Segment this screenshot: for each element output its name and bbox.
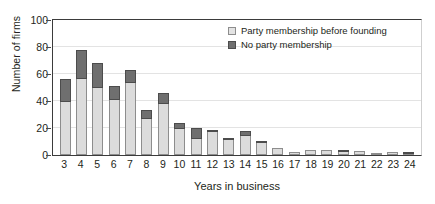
bar-slot [90,20,106,155]
chart-legend: Party membership before founding No part… [228,25,387,53]
y-tick-mark [46,74,51,75]
y-tick-mark [46,47,51,48]
legend-item-label: No party membership [241,39,332,50]
bar-segment-party-membership-before-founding [158,104,169,155]
y-tick-mark [46,155,51,156]
legend-item: No party membership [228,39,387,50]
bar-segment-party-membership-before-founding [321,150,332,155]
bar-segment-party-membership-before-founding [272,148,283,155]
x-tick-label: 18 [303,158,319,170]
x-tick-label: 16 [270,158,286,170]
bar-segment-party-membership-before-founding [256,143,267,155]
stacked-bar[interactable] [403,152,414,155]
bar-slot [122,20,138,155]
stacked-bar[interactable] [158,93,169,155]
bar-segment-party-membership-before-founding [174,129,185,155]
legend-item-label: Party membership before founding [241,25,387,36]
chart-figure: Number of firms 020406080100 34567891011… [0,0,435,204]
stacked-bar[interactable] [272,148,283,155]
stacked-bar[interactable] [289,152,300,155]
stacked-bar[interactable] [76,50,87,155]
x-axis-title: Years in business [52,180,422,192]
stacked-bar[interactable] [191,128,202,155]
bar-segment-party-membership-before-founding [371,153,382,155]
stacked-bar[interactable] [92,63,103,155]
x-tick-label: 17 [286,158,302,170]
bar-segment-party-membership-before-founding [338,152,349,155]
stacked-bar[interactable] [354,151,365,155]
x-tick-label: 11 [188,158,204,170]
bar-slot [155,20,171,155]
bar-slot [57,20,73,155]
stacked-bar[interactable] [60,79,71,155]
legend-item: Party membership before founding [228,25,387,36]
x-tick-label: 6 [105,158,121,170]
x-tick-label: 9 [155,158,171,170]
bar-segment-party-membership-before-founding [191,139,202,155]
bar-segment-party-membership-before-founding [60,102,71,155]
bar-segment-party-membership-before-founding [354,151,365,155]
stacked-bar[interactable] [338,150,349,155]
bar-segment-no-party-membership [92,63,103,87]
bar-slot [401,20,417,155]
x-tick-label: 3 [56,158,72,170]
stacked-bar[interactable] [240,131,251,155]
x-tick-label: 21 [352,158,368,170]
bar-segment-party-membership-before-founding [240,136,251,155]
x-tick-label: 14 [237,158,253,170]
bar-slot [172,20,188,155]
bar-segment-party-membership-before-founding [289,152,300,155]
bar-slot [139,20,155,155]
bar-segment-no-party-membership [174,123,185,130]
x-tick-label: 7 [122,158,138,170]
x-tick-label: 20 [336,158,352,170]
stacked-bar[interactable] [223,138,234,155]
stacked-bar[interactable] [256,141,267,155]
y-axis-tick-labels: 020406080100 [18,14,48,160]
bar-slot [106,20,122,155]
bar-segment-party-membership-before-founding [141,119,152,155]
x-tick-label: 24 [402,158,418,170]
x-tick-label: 5 [89,158,105,170]
stacked-bar[interactable] [371,153,382,155]
stacked-bar[interactable] [109,86,120,155]
y-tick-mark [46,101,51,102]
light-square-swatch [228,27,236,35]
x-axis-tick-labels: 3456789101112131415161718192021222324 [52,158,422,170]
x-tick-label: 12 [204,158,220,170]
bar-segment-party-membership-before-founding [109,100,120,155]
stacked-bar[interactable] [305,150,316,155]
bar-segment-no-party-membership [109,86,120,100]
bar-slot [188,20,204,155]
y-tick-mark [46,128,51,129]
x-tick-label: 10 [171,158,187,170]
bar-segment-party-membership-before-founding [92,88,103,156]
x-tick-label: 13 [221,158,237,170]
bar-segment-party-membership-before-founding [76,79,87,155]
bar-segment-no-party-membership [60,79,71,102]
bar-segment-party-membership-before-founding [403,154,414,155]
x-tick-label: 8 [138,158,154,170]
bar-segment-party-membership-before-founding [387,152,398,155]
bar-segment-no-party-membership [125,70,136,84]
stacked-bar[interactable] [125,70,136,155]
x-tick-label: 23 [385,158,401,170]
bar-segment-party-membership-before-founding [125,83,136,155]
stacked-bar[interactable] [141,110,152,155]
bar-segment-party-membership-before-founding [223,140,234,155]
stacked-bar[interactable] [174,123,185,155]
x-tick-label: 4 [72,158,88,170]
bar-segment-no-party-membership [76,50,87,80]
bar-segment-party-membership-before-founding [207,132,218,155]
x-tick-label: 15 [253,158,269,170]
bar-segment-no-party-membership [158,93,169,104]
bar-segment-no-party-membership [141,110,152,118]
stacked-bar[interactable] [387,152,398,155]
stacked-bar[interactable] [321,150,332,155]
x-tick-label: 22 [369,158,385,170]
bar-segment-party-membership-before-founding [305,150,316,155]
dark-square-swatch [228,41,236,49]
bar-slot [204,20,220,155]
stacked-bar[interactable] [207,130,218,155]
bar-segment-no-party-membership [191,128,202,139]
